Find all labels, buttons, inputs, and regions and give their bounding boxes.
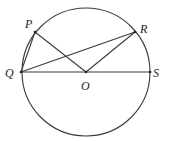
geometry-diagram: P R Q S O: [0, 0, 169, 141]
label-O: O: [81, 79, 90, 93]
segment-RO: [86, 32, 135, 72]
label-Q: Q: [5, 66, 14, 80]
point-R: [134, 31, 137, 34]
point-P: [34, 31, 37, 34]
label-R: R: [139, 22, 148, 36]
point-O: [85, 71, 88, 74]
point-S: [149, 71, 152, 74]
label-P: P: [24, 17, 33, 31]
label-S: S: [153, 66, 159, 80]
segments: [21, 32, 150, 72]
point-Q: [20, 71, 23, 74]
points: [20, 31, 152, 74]
segment-QP: [21, 32, 35, 72]
